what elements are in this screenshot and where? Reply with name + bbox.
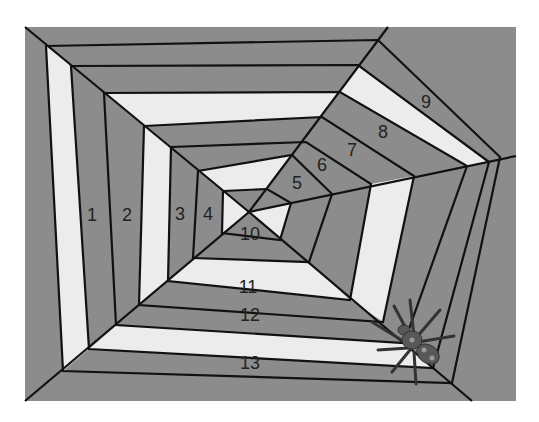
section-label-12: 12 bbox=[240, 305, 260, 325]
section-label-9: 9 bbox=[421, 92, 431, 112]
spider-leg-8 bbox=[414, 352, 416, 384]
spider-leg-6 bbox=[378, 348, 408, 350]
spider-spot-1 bbox=[410, 338, 415, 343]
section-label-5: 5 bbox=[292, 173, 302, 193]
spider-spot-3 bbox=[430, 356, 435, 361]
web-section-band_5_6-top bbox=[71, 65, 358, 93]
section-label-8: 8 bbox=[378, 122, 388, 142]
spider-spot-2 bbox=[422, 348, 427, 353]
section-label-7: 7 bbox=[347, 140, 357, 160]
section-label-2: 2 bbox=[122, 205, 132, 225]
section-label-3: 3 bbox=[175, 204, 185, 224]
section-label-4: 4 bbox=[203, 204, 213, 224]
section-label-13: 13 bbox=[240, 353, 260, 373]
section-label-1: 1 bbox=[87, 205, 97, 225]
section-label-11: 11 bbox=[239, 277, 258, 297]
spider-web-diagram: 12345678910111213 bbox=[0, 0, 539, 422]
section-label-6: 6 bbox=[317, 155, 327, 175]
section-label-10: 10 bbox=[240, 224, 260, 244]
